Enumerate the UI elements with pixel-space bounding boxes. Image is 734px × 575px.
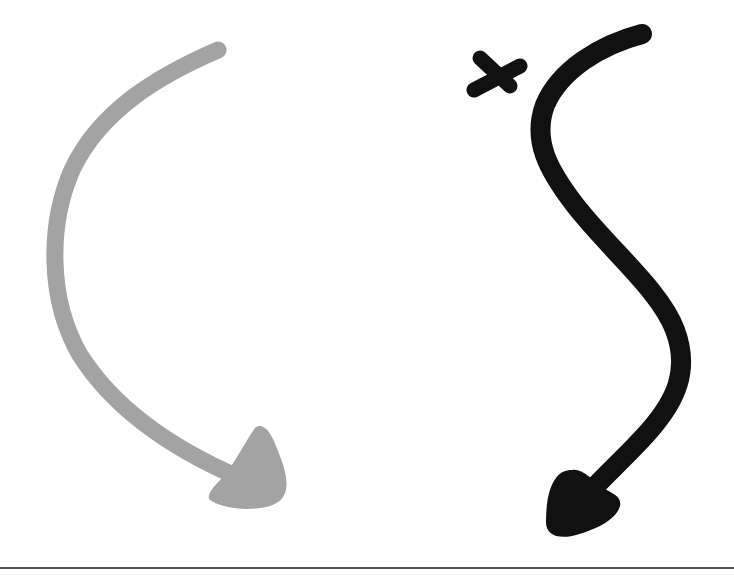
black-arrow-shaft (540, 34, 681, 492)
x-mark-icon (474, 58, 520, 90)
gray-arrow-shaft (55, 50, 240, 478)
illustration-canvas (0, 0, 734, 575)
black-s-curve-arrow (540, 34, 681, 537)
gray-curved-arrow (55, 50, 287, 509)
bottom-rule (0, 567, 734, 569)
